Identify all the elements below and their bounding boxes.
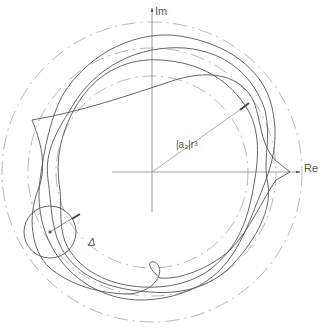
axes bbox=[112, 8, 300, 212]
locus-curve-4 bbox=[58, 60, 257, 287]
radius-arrow bbox=[152, 104, 248, 172]
radius-label: |a₃|r³ bbox=[176, 140, 198, 150]
locus-curves bbox=[32, 35, 290, 300]
imaginary-axis-label: Im bbox=[155, 6, 167, 17]
perturbation-arrow-head bbox=[72, 214, 80, 219]
locus-curve-2 bbox=[47, 48, 268, 293]
perturbation-label: Δ bbox=[88, 237, 95, 248]
complex-plane-diagram bbox=[0, 0, 334, 328]
real-axis-label: Re bbox=[304, 163, 318, 174]
